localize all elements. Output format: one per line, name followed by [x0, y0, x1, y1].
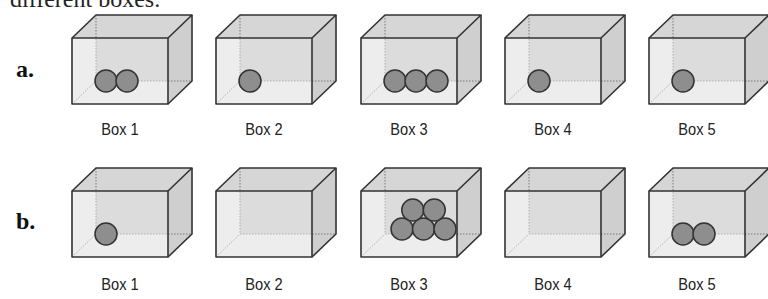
box-label-a2: Box 2	[230, 120, 299, 140]
box-b3	[361, 168, 481, 257]
ball	[672, 223, 694, 245]
box-front-face	[649, 191, 745, 257]
ball	[95, 70, 117, 92]
box-a2	[216, 15, 336, 104]
box-front-face	[72, 38, 168, 104]
box-front-face	[72, 191, 168, 257]
box-a4	[505, 15, 625, 104]
ball	[239, 70, 261, 92]
box-front-face	[216, 38, 312, 104]
ball	[116, 70, 138, 92]
box-label-b4: Box 4	[519, 275, 588, 295]
box-a5	[649, 15, 768, 104]
box-b1	[72, 168, 192, 257]
boxes-diagram	[0, 0, 768, 299]
box-front-face	[649, 38, 745, 104]
box-label-a1: Box 1	[86, 120, 155, 140]
box-front-face	[505, 38, 601, 104]
ball	[423, 199, 445, 221]
box-b5	[649, 168, 768, 257]
ball	[693, 223, 715, 245]
box-b2	[216, 168, 336, 257]
ball	[528, 70, 550, 92]
box-label-a3: Box 3	[375, 120, 444, 140]
box-front-face	[216, 191, 312, 257]
box-front-face	[505, 191, 601, 257]
box-a1	[72, 15, 192, 104]
ball	[672, 70, 694, 92]
box-label-a4: Box 4	[519, 120, 588, 140]
ball	[384, 70, 406, 92]
box-label-b1: Box 1	[86, 275, 155, 295]
box-label-b2: Box 2	[230, 275, 299, 295]
box-label-b5: Box 5	[663, 275, 732, 295]
box-b4	[505, 168, 625, 257]
box-label-a5: Box 5	[663, 120, 732, 140]
ball	[426, 70, 448, 92]
ball	[402, 199, 424, 221]
box-label-b3: Box 3	[375, 275, 444, 295]
ball	[405, 70, 427, 92]
ball	[95, 223, 117, 245]
box-a3	[361, 15, 481, 104]
